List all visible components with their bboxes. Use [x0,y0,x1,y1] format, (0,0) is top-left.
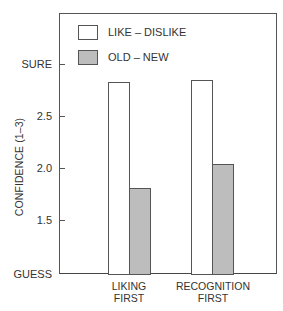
bar-old-new-recognition-first [212,164,234,275]
y-tick-label-2-5: 2.5 [2,110,52,122]
y-tick-label-sure: SURE [2,58,52,70]
x-label-recognition-first: RECOGNITION FIRST [170,280,256,304]
x-label-line-1: LIKING [96,280,162,292]
y-tick-2-5 [59,116,65,117]
x-label-liking-first: LIKING FIRST [96,280,162,304]
y-tick-1-5 [59,220,65,221]
x-label-line-2: FIRST [170,292,256,304]
x-label-line-1: RECOGNITION [170,280,256,292]
y-tick-label-2-0: 2.0 [2,162,52,174]
legend-label-like-dislike: LIKE – DISLIKE [108,26,186,39]
bar-like-dislike-recognition-first [191,80,213,275]
y-tick-2-0 [59,168,65,169]
bar-like-dislike-liking-first [108,82,130,275]
legend-swatch-old-new [78,50,98,65]
legend-swatch-like-dislike [78,25,98,40]
x-label-line-2: FIRST [96,292,162,304]
y-axis-label: CONFIDENCE (1–3) [13,112,25,222]
y-tick-label-guess: GUESS [2,268,52,280]
bar-old-new-liking-first [129,188,151,275]
legend-label-old-new: OLD – NEW [108,51,169,64]
y-tick-label-1-5: 1.5 [2,214,52,226]
y-tick-sure [59,64,65,65]
